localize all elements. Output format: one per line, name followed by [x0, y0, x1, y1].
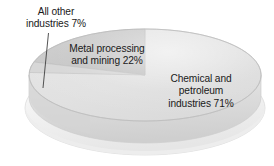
pie-label-metal-processing: Metal processing and mining 22% [49, 43, 165, 68]
pie-label-chemical-petroleum: Chemical and petroleum industries 71% [148, 73, 254, 110]
pie-label-all-other: All other industries 7% [4, 6, 108, 31]
pie-chart-figure: All other industries 7% Metal processing… [0, 0, 274, 166]
